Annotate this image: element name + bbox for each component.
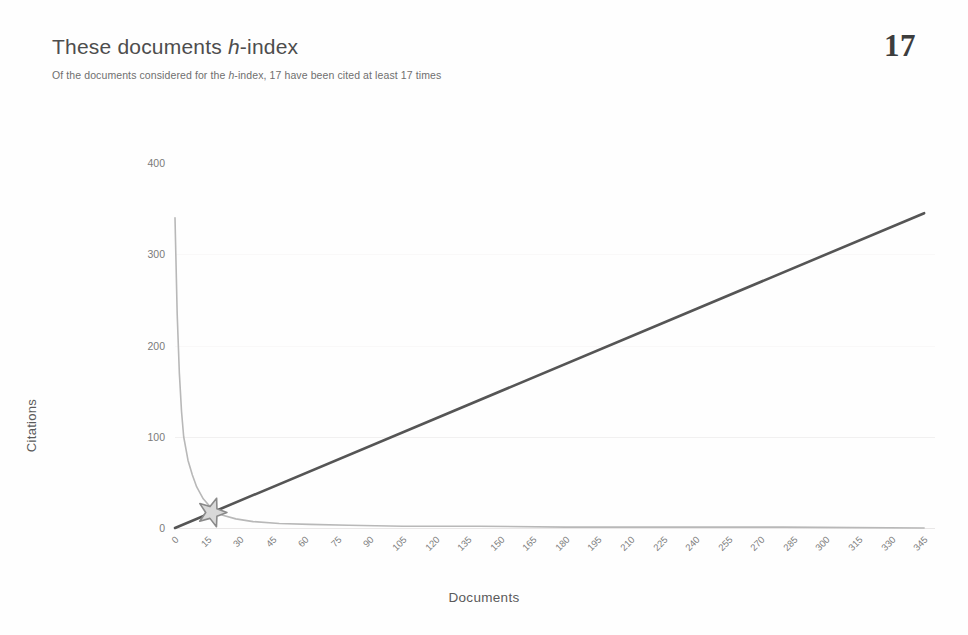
slide-canvas: These documents h-index 17 Of the docume…	[0, 0, 968, 635]
series-line	[175, 213, 924, 528]
plot-area: 0100200300400 01530456075901051201351501…	[175, 163, 935, 528]
h-index-value: 17	[884, 28, 916, 64]
x-axis-title: Documents	[0, 590, 968, 605]
y-tick-label: 0	[159, 522, 165, 534]
h-index-star-marker	[200, 498, 227, 527]
subtitle-text-pre: Of the documents considered for the	[52, 69, 228, 81]
title-text-post: -index	[240, 35, 298, 58]
page-subtitle: Of the documents considered for the h-in…	[52, 69, 916, 81]
x-tick-label: 0	[173, 530, 185, 542]
series-plot	[175, 118, 935, 528]
page-title: These documents h-index	[52, 34, 916, 59]
title-text-pre: These documents	[52, 35, 228, 58]
x-axis-line	[175, 528, 935, 529]
title-text-italic: h	[228, 35, 240, 58]
y-tick-label: 300	[147, 248, 165, 260]
y-tick-label: 100	[147, 431, 165, 443]
y-tick-label: 200	[147, 340, 165, 352]
subtitle-text-post: -index, 17 have been cited at least 17 t…	[234, 69, 441, 81]
y-tick-label: 400	[147, 157, 165, 169]
header: These documents h-index 17 Of the docume…	[52, 34, 916, 104]
h-index-chart: Citations Documents 0100200300400 015304…	[0, 118, 968, 628]
y-axis-title: Citations	[24, 371, 39, 481]
